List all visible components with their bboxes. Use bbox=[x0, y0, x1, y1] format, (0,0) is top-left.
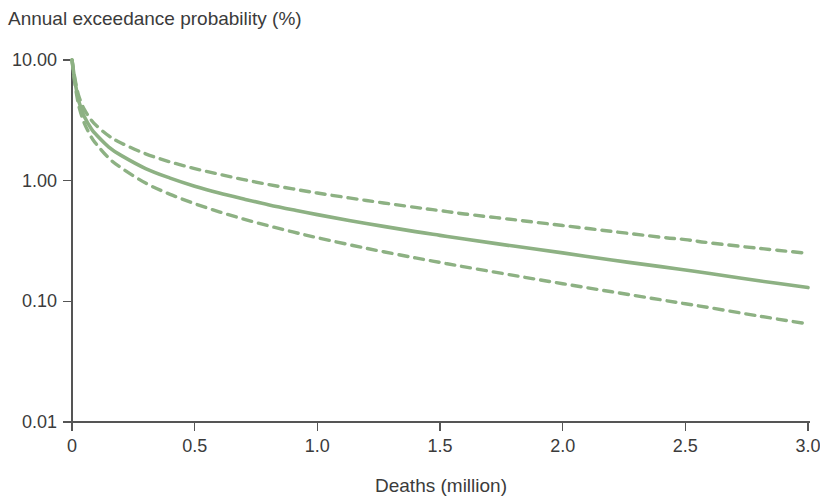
y-axis-tick-labels: 10.001.000.100.01 bbox=[12, 50, 57, 432]
y-tick-label: 0.01 bbox=[22, 412, 57, 432]
data-series-group bbox=[72, 60, 808, 324]
x-tick-label: 2.0 bbox=[550, 436, 575, 456]
y-axis-tick-marks bbox=[63, 60, 72, 422]
x-tick-label: 1.0 bbox=[305, 436, 330, 456]
y-tick-label: 10.00 bbox=[12, 50, 57, 70]
series-path bbox=[72, 60, 808, 288]
exceedance-probability-chart: Annual exceedance probability (%) 10.001… bbox=[0, 0, 820, 502]
x-tick-label: 1.5 bbox=[427, 436, 452, 456]
series-path bbox=[72, 60, 808, 324]
chart-container: Annual exceedance probability (%) 10.001… bbox=[0, 0, 820, 502]
y-tick-label: 0.10 bbox=[22, 291, 57, 311]
x-tick-label: 2.5 bbox=[673, 436, 698, 456]
x-tick-label: 0.5 bbox=[182, 436, 207, 456]
x-axis-tick-labels: 00.51.01.52.02.53.0 bbox=[67, 436, 820, 456]
y-axis-title: Annual exceedance probability (%) bbox=[8, 8, 302, 29]
x-tick-label: 3.0 bbox=[795, 436, 820, 456]
x-axis-tick-marks bbox=[72, 422, 808, 431]
x-tick-label: 0 bbox=[67, 436, 77, 456]
series-path bbox=[72, 60, 808, 253]
x-axis-title: Deaths (million) bbox=[375, 475, 507, 496]
y-tick-label: 1.00 bbox=[22, 171, 57, 191]
